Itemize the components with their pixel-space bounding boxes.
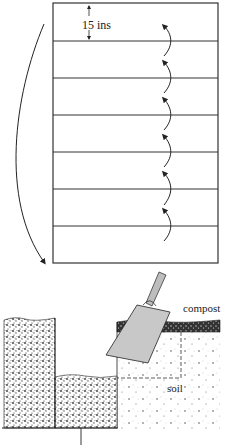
section-view: [2, 272, 220, 445]
turn-soil-arrows-icon: [164, 26, 171, 241]
plot-outline: [53, 3, 218, 263]
plan-view: [16, 3, 218, 263]
move-soil-arrow-icon: [16, 24, 44, 262]
digging-diagram: [0, 0, 230, 445]
dug-soil-left: [4, 318, 55, 428]
spacing-label: 15 ins: [82, 19, 111, 31]
soil-label: soil: [167, 383, 183, 394]
compost-label: compost: [183, 303, 220, 314]
trench-fill: [55, 375, 117, 428]
